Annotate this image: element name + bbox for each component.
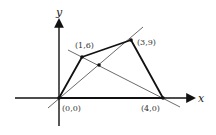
point-b <box>80 55 84 59</box>
point-c <box>129 38 133 42</box>
label-c: (3,9) <box>137 38 156 47</box>
x-axis-label: x <box>198 92 205 105</box>
label-d: (4,0) <box>141 104 160 113</box>
coordinate-diagram: y x (0,0) (1,6) (3,9) (4,0) <box>0 0 216 135</box>
diagonal-origin-to-c <box>48 27 143 108</box>
label-b: (1,6) <box>75 41 94 50</box>
point-intersection <box>97 63 101 67</box>
y-axis-label: y <box>55 6 63 19</box>
point-d <box>161 96 165 100</box>
point-origin <box>57 96 61 100</box>
label-origin: (0,0) <box>62 104 81 113</box>
